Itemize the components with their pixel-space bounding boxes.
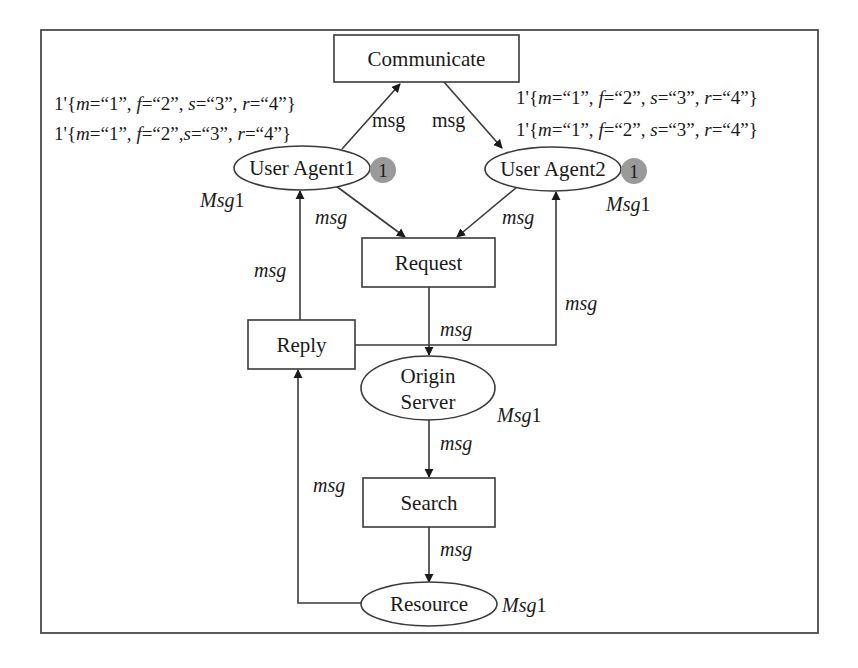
place-user-agent2-label: User Agent2 — [500, 157, 606, 181]
inscription-resource-reply: msg — [313, 474, 345, 497]
place-origin-server[interactable]: Origin Server — [361, 356, 495, 420]
inscription-communicate-ua2: msg — [432, 109, 465, 132]
place-origin-server-label-line2: Server — [401, 390, 456, 414]
inscription-ua1-request: msg — [315, 206, 347, 229]
transition-communicate-label: Communicate — [368, 47, 486, 71]
place-user-agent2[interactable]: User Agent2 — [485, 147, 621, 191]
token-count-ua2: 1 — [621, 158, 647, 184]
inscription-ua2-request: msg — [502, 206, 534, 229]
place-resource-label: Resource — [390, 592, 468, 616]
inscription-search-resource: msg — [440, 538, 472, 561]
token-count-ua1: 1 — [370, 157, 396, 183]
token-count-ua1-value: 1 — [378, 160, 388, 181]
colorset-resource: Msg1 — [501, 594, 546, 617]
colorset-origin: Msg1 — [496, 404, 541, 427]
marking-ua2-line2: 1'{m=“1”, f=“2”, s=“3”, r=“4”} — [516, 119, 758, 140]
transition-communicate[interactable]: Communicate — [334, 35, 519, 82]
petri-net-diagram: Communicate Request Reply Search User Ag… — [0, 0, 858, 668]
transition-reply-label: Reply — [276, 333, 327, 357]
colorset-ua1: Msg1 — [199, 189, 244, 212]
transition-request-label: Request — [395, 251, 463, 275]
inscription-origin-search: msg — [440, 432, 472, 455]
inscription-ua1-communicate: msg — [372, 109, 405, 132]
place-origin-server-label-line1: Origin — [401, 364, 456, 388]
marking-ua1-line1: 1'{m=“1”, f=“2”, s=“3”, r=“4”} — [54, 93, 296, 114]
inscription-reply-ua1: msg — [254, 259, 286, 282]
colorset-ua2: Msg1 — [605, 193, 650, 216]
inscription-request-origin: msg — [440, 318, 472, 341]
transition-reply[interactable]: Reply — [248, 320, 355, 369]
transition-request[interactable]: Request — [362, 238, 495, 287]
marking-ua1-line2: 1'{m=“1”, f=“2”,s=“3”, r=“4”} — [54, 123, 291, 144]
inscription-reply-ua2: msg — [565, 292, 597, 315]
transition-search[interactable]: Search — [363, 478, 495, 527]
transition-search-label: Search — [400, 491, 458, 515]
token-count-ua2-value: 1 — [629, 161, 639, 182]
place-user-agent1-label: User Agent1 — [249, 156, 355, 180]
place-resource[interactable]: Resource — [361, 582, 497, 626]
marking-ua2-line1: 1'{m=“1”, f=“2”, s=“3”, r=“4”} — [516, 87, 758, 108]
place-user-agent1[interactable]: User Agent1 — [234, 146, 370, 190]
